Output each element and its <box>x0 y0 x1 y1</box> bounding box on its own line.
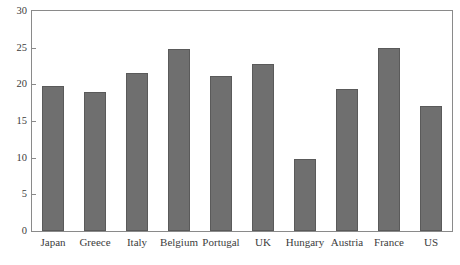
x-axis: JapanGreeceItalyBelgiumPortugalUKHungary… <box>32 236 452 256</box>
bar <box>126 73 148 231</box>
y-axis-tick-label: 30 <box>0 6 27 17</box>
bar <box>84 92 106 231</box>
bar-slot <box>326 11 368 231</box>
y-axis-tick-mark <box>31 158 36 159</box>
y-axis-tick-label: 5 <box>0 189 27 200</box>
bar-slot <box>32 11 74 231</box>
bars-container <box>32 11 452 231</box>
bar-slot <box>284 11 326 231</box>
y-axis-tick-label: 10 <box>0 153 27 164</box>
x-axis-tick-label: US <box>401 236 460 249</box>
bar <box>210 76 232 231</box>
y-axis-tick-label: 20 <box>0 79 27 90</box>
bar-slot <box>368 11 410 231</box>
bar <box>420 106 442 231</box>
cut-off-title <box>0 0 460 7</box>
bar-slot <box>116 11 158 231</box>
y-axis-tick-label: 15 <box>0 116 27 127</box>
bar-slot <box>410 11 452 231</box>
bar <box>336 89 358 231</box>
bar-slot <box>242 11 284 231</box>
y-axis-tick-mark <box>31 84 36 85</box>
bar-slot <box>200 11 242 231</box>
bar-chart-figure: 051015202530 JapanGreeceItalyBelgiumPort… <box>0 0 460 265</box>
bar <box>378 48 400 231</box>
bar <box>42 86 64 231</box>
bar-slot <box>74 11 116 231</box>
bar <box>294 159 316 231</box>
y-axis-tick-mark <box>31 194 36 195</box>
bar <box>168 49 190 231</box>
y-axis-tick-label: 0 <box>0 226 27 237</box>
y-axis: 051015202530 <box>0 0 27 265</box>
y-axis-tick-mark <box>31 121 36 122</box>
bar-slot <box>158 11 200 231</box>
y-axis-tick-mark <box>31 48 36 49</box>
y-axis-tick-label: 25 <box>0 43 27 54</box>
bar <box>252 64 274 231</box>
